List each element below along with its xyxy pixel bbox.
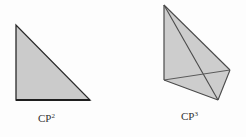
- label-cp2: CP2: [38, 112, 55, 124]
- tetrahedron-cp3: [164, 5, 230, 100]
- triangle-cp2: [16, 25, 90, 100]
- label-cp3-base: CP: [181, 110, 194, 122]
- simplex-diagram: [0, 0, 246, 137]
- label-cp2-base: CP: [38, 112, 51, 124]
- label-cp2-exponent: 2: [51, 112, 55, 120]
- label-cp3: CP3: [181, 110, 198, 122]
- figure-canvas: CP2 CP3: [0, 0, 246, 137]
- label-cp3-exponent: 3: [194, 110, 198, 118]
